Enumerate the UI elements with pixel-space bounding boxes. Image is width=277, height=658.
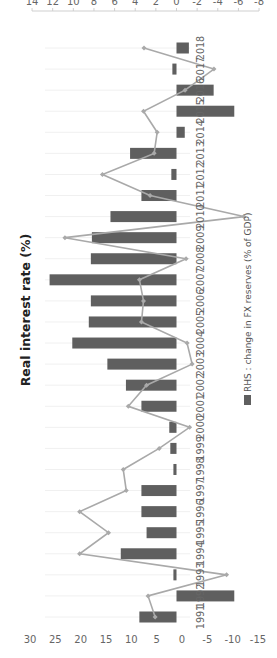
legend: RHS : change in FX reserves (% of GDP) <box>243 213 253 405</box>
svg-text:-10: -10 <box>224 634 240 645</box>
svg-text:1996: 1996 <box>195 499 206 523</box>
chart-frame: 302520151050-5-10-15 14121086420-2-4-6-8… <box>0 0 277 658</box>
svg-text:1998: 1998 <box>195 457 206 481</box>
svg-text:20: 20 <box>74 634 87 645</box>
svg-text:14: 14 <box>26 0 39 7</box>
svg-text:2001: 2001 <box>195 394 206 418</box>
svg-text:-4: -4 <box>213 0 223 7</box>
right-axis-ticks: 14121086420-2-4-6-8 <box>26 0 264 11</box>
svg-text:2018: 2018 <box>195 36 206 60</box>
svg-text:-8: -8 <box>254 0 264 7</box>
svg-text:1999: 1999 <box>195 436 206 460</box>
svg-text:2015: 2015 <box>195 99 206 123</box>
svg-text:2005: 2005 <box>195 310 206 334</box>
svg-text:2009: 2009 <box>195 225 206 249</box>
svg-text:2010: 2010 <box>195 204 206 228</box>
svg-text:6: 6 <box>111 0 117 7</box>
svg-text:8: 8 <box>91 0 97 7</box>
svg-text:1992: 1992 <box>195 584 206 608</box>
svg-text:10: 10 <box>67 0 80 7</box>
svg-text:1997: 1997 <box>195 478 206 502</box>
svg-text:2003: 2003 <box>195 352 206 376</box>
svg-text:4: 4 <box>132 0 138 7</box>
svg-text:1994: 1994 <box>195 542 206 566</box>
svg-text:2007: 2007 <box>195 268 206 292</box>
svg-text:1991: 1991 <box>195 605 206 629</box>
svg-text:2012: 2012 <box>195 162 206 186</box>
gridlines <box>32 11 259 617</box>
svg-text:2016: 2016 <box>195 78 206 102</box>
svg-text:2: 2 <box>153 0 159 7</box>
svg-text:1993: 1993 <box>195 563 206 587</box>
svg-text:-5: -5 <box>202 634 212 645</box>
svg-text:2017: 2017 <box>195 57 206 81</box>
svg-text:-2: -2 <box>192 0 202 7</box>
svg-text:2006: 2006 <box>195 289 206 313</box>
svg-text:2008: 2008 <box>195 247 206 271</box>
chart-title: Real interest rate (%) <box>18 234 33 387</box>
svg-text:0: 0 <box>179 634 185 645</box>
svg-text:15: 15 <box>100 634 113 645</box>
svg-text:10: 10 <box>125 634 138 645</box>
svg-text:12: 12 <box>46 0 59 7</box>
left-axis-ticks: 302520151050-5-10-15 <box>24 634 267 645</box>
svg-text:2014: 2014 <box>195 120 206 144</box>
legend-swatch <box>244 395 251 405</box>
legend-label: RHS : change in FX reserves (% of GDP) <box>243 213 253 392</box>
svg-text:2013: 2013 <box>195 141 206 165</box>
svg-text:0: 0 <box>173 0 179 7</box>
chart-svg: 302520151050-5-10-15 14121086420-2-4-6-8… <box>0 0 277 658</box>
svg-text:5: 5 <box>153 634 159 645</box>
svg-text:-6: -6 <box>233 0 243 7</box>
svg-text:2004: 2004 <box>195 331 206 355</box>
svg-text:25: 25 <box>49 634 62 645</box>
year-labels: 1991199219931994199519961997199819992000… <box>195 36 206 629</box>
svg-text:1995: 1995 <box>195 520 206 544</box>
svg-text:2002: 2002 <box>195 373 206 397</box>
fx-reserves-bars <box>50 43 235 623</box>
svg-text:-15: -15 <box>250 634 266 645</box>
svg-text:2000: 2000 <box>195 415 206 439</box>
svg-text:30: 30 <box>24 634 37 645</box>
svg-text:2011: 2011 <box>195 183 206 207</box>
